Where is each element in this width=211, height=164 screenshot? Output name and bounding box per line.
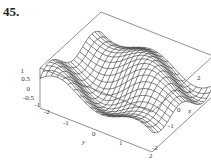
z-tick: 0	[27, 85, 31, 93]
z-tick: 1	[21, 67, 25, 75]
z-tick: -1	[34, 101, 40, 109]
y-tick: 0	[92, 130, 96, 138]
z-axis-ticks: 1 0.5 0 -0.5 -1	[21, 67, 41, 109]
y-axis-label: y	[81, 138, 86, 146]
x-tick: -2	[152, 144, 158, 152]
z-tick: -0.5	[23, 94, 35, 102]
x-tick: 0	[177, 106, 181, 114]
y-tick: -2	[44, 108, 50, 116]
surface-mesh	[40, 31, 211, 132]
surface-plot: 1 0.5 0 -0.5 -1 -2 -1 0 1 2 y -2 -1 0 1 …	[0, 0, 211, 164]
y-tick: 2	[149, 152, 153, 160]
x-tick: 2	[197, 74, 201, 82]
y-tick: -1	[63, 119, 69, 127]
x-axis-label: x	[187, 107, 192, 115]
x-tick: 1	[188, 86, 192, 94]
x-tick: -1	[168, 122, 174, 130]
bounding-box	[40, 12, 211, 152]
y-tick: 1	[119, 139, 123, 147]
z-tick: 0.5	[21, 75, 30, 83]
